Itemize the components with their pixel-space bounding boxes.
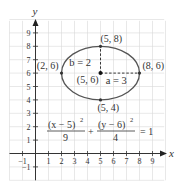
equation-numerator-2: (y − 6) — [98, 119, 125, 131]
y-tick-label: −1 — [22, 163, 31, 172]
y-axis-label: y — [32, 5, 38, 17]
point — [99, 45, 102, 48]
y-tick-label: 1 — [27, 136, 31, 145]
x-tick-label: 1 — [47, 157, 51, 166]
point-label: (5, 8) — [101, 33, 123, 45]
x-tick-label: 6 — [112, 157, 116, 166]
center-point — [99, 71, 103, 75]
x-tick-label: 2 — [60, 157, 64, 166]
y-tick-label: 8 — [27, 42, 31, 51]
axes: x y — [10, 5, 175, 180]
point-label: (2, 6) — [37, 60, 59, 72]
b-label: b = 2 — [69, 57, 91, 68]
y-tick-label: 2 — [27, 123, 31, 132]
equation-rhs: = 1 — [140, 126, 153, 137]
ellipse-equation: (x − 5) 2 9 + (y − 6) 2 4 = 1 — [47, 116, 153, 143]
point-label: (8, 6) — [143, 60, 165, 72]
y-tick-label: 5 — [27, 83, 31, 92]
x-tick-label: 9 — [151, 157, 155, 166]
point-label: (5, 6) — [77, 74, 99, 86]
a-label: a = 3 — [106, 75, 127, 86]
x-tick-label: 3 — [73, 157, 77, 166]
y-axis-arrow — [33, 19, 39, 26]
ellipse-graph: x y −1123456789−1123456789 (2, 6)(8, 6)(… — [0, 0, 179, 185]
equation-exponent-1: 2 — [80, 116, 83, 123]
y-tick-label: 6 — [27, 69, 31, 78]
point — [60, 72, 63, 75]
equation-denominator-2: 4 — [113, 132, 118, 143]
ticks: −1123456789−1123456789 — [18, 29, 154, 172]
x-tick-label: 5 — [99, 157, 103, 166]
equation-plus: + — [88, 126, 94, 137]
points: (2, 6)(8, 6)(5, 8)(5, 4)(5, 6) — [37, 33, 164, 114]
equation-exponent-2: 2 — [130, 116, 133, 123]
point-label: (5, 4) — [98, 102, 120, 114]
x-axis-arrow — [160, 151, 167, 157]
x-tick-label: 8 — [138, 157, 142, 166]
equation-numerator-1: (x − 5) — [48, 119, 75, 131]
y-tick-label: 3 — [27, 109, 31, 118]
x-axis-label: x — [168, 147, 174, 159]
y-tick-label: 4 — [27, 96, 31, 105]
equation-denominator-1: 9 — [63, 132, 68, 143]
y-tick-label: 7 — [27, 56, 31, 65]
x-tick-label: 4 — [86, 157, 90, 166]
x-tick-label: 7 — [125, 157, 129, 166]
point — [138, 72, 141, 75]
y-tick-label: 9 — [27, 29, 31, 38]
